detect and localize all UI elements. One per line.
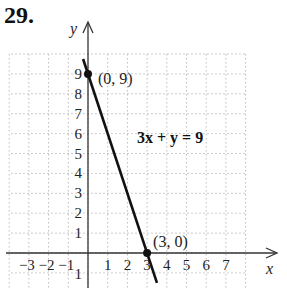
graph: −3−2−112345671123456789 (0, 9)(3, 0) 3x … — [0, 0, 287, 288]
y-tick-label: 5 — [75, 146, 83, 162]
y-tick-label: 3 — [75, 185, 83, 201]
equation-label: 3x + y = 9 — [137, 129, 203, 147]
x-tick-label: 7 — [222, 257, 230, 273]
x-tick-label: 6 — [202, 257, 210, 273]
y-tick-label: 8 — [75, 86, 83, 102]
y-tick-label: 1 — [75, 266, 83, 282]
x-tick-label: 2 — [124, 257, 132, 273]
x-tick-label: −2 — [39, 257, 55, 273]
point-label: (0, 9) — [98, 70, 133, 88]
x-axis-label: x — [265, 260, 273, 277]
y-tick-label: 9 — [75, 66, 83, 82]
y-tick-label: 6 — [75, 126, 83, 142]
axes — [6, 22, 277, 288]
x-tick-label: 5 — [183, 257, 191, 273]
points: (0, 9)(3, 0) — [84, 70, 188, 257]
y-tick-label: 4 — [75, 165, 83, 181]
y-tick-label: 1 — [75, 225, 83, 241]
y-tick-label: 7 — [75, 106, 83, 122]
x-tick-label: 4 — [163, 257, 171, 273]
x-tick-label: 1 — [104, 257, 112, 273]
x-tick-label: −1 — [58, 257, 74, 273]
point-marker — [143, 249, 151, 257]
y-tick-label: 2 — [75, 205, 83, 221]
x-tick-label: −3 — [19, 257, 35, 273]
point-marker — [84, 70, 92, 78]
point-label: (3, 0) — [153, 233, 188, 251]
y-axis-label: y — [68, 20, 78, 38]
